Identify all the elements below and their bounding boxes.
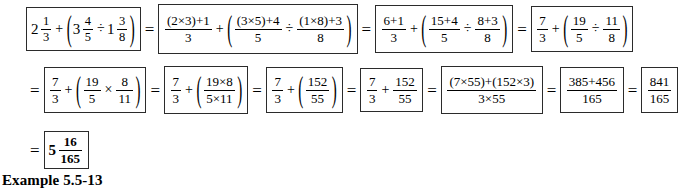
paren-open: ( [75,72,82,107]
divide-operator: ÷ [283,22,296,36]
mixed-number-1-3-8: 1 3 8 [107,15,129,44]
expression-original: 2 1 3 + ( 3 4 5 ÷ [31,15,136,44]
fraction-8-over-11: 8 11 [116,75,133,105]
fraction-7-over-3: 7 3 [50,75,61,105]
fraction-3x5-plus-4-over-5: (3×5)+4 5 [235,14,282,44]
paren-close: ) [346,11,353,46]
paren-close: ) [236,72,243,107]
numerator: 385+456 [567,75,617,88]
expression-improper-result: 841 165 [646,75,673,105]
numerator: 7 [272,75,283,88]
numerator: 19×8 [204,75,235,88]
numerator: (3×5)+4 [235,14,282,27]
mixed-number-5-16-165: 5 16 165 [49,135,84,165]
numerator: 1 [41,15,51,28]
boxed-step-parentheses-removed: 7 3 + 152 55 [360,68,423,112]
equation-row-2: = 7 3 + ( 19 5 × 8 1 [26,64,678,116]
denominator: 55 [397,92,414,105]
denominator: 3 [171,92,182,105]
numerator: 19 [571,14,588,27]
mixed-number-3-4-5: 3 4 5 [73,15,95,44]
equals-sign: = [141,21,159,38]
plus-operator: + [183,83,196,97]
paren-open: ( [195,72,202,107]
denominator: 5 [83,31,93,44]
paren-open: ( [66,11,73,46]
denominator: 11 [116,92,133,105]
fraction-15-plus-4-over-5: 15+4 5 [429,14,460,44]
equals-sign: = [624,82,642,99]
boxed-step-simplified-improper: 7 3 + ( 19 5 ÷ 11 8 ) [531,6,634,52]
expression-product-evaluated: 7 3 + ( 152 55 ) [271,75,338,105]
mixed-number-2-1-3: 2 1 3 [31,15,53,44]
denominator: 8 [606,31,617,44]
expression-cross-multiplied: (7×55)+(152×3) 3×55 [446,75,538,105]
fraction-152-over-55: 152 55 [393,75,417,105]
fraction-7-over-3: 7 3 [272,75,283,105]
equals-sign: = [513,21,531,38]
fraction-19-over-5: 19 5 [84,75,101,105]
equation-row-3: = 5 16 165 [26,129,89,171]
paren-close: ) [621,11,628,46]
numerator: 152 [306,75,330,88]
numerator: 7 [537,14,548,27]
fraction-1-3: 1 3 [41,15,51,44]
fraction-385-plus-456-over-165: 385+456 165 [567,75,617,105]
plus-operator: + [284,83,297,97]
fraction-841-over-165: 841 165 [648,75,672,105]
plus-operator: + [53,22,66,36]
fraction-6-plus-1-over-3: 6+1 3 [382,14,406,44]
paren-open: ( [297,72,304,107]
plus-operator: + [62,83,75,97]
denominator: 5 [87,92,98,105]
denominator: 3 [272,92,283,105]
fraction-11-over-8: 11 8 [603,14,620,44]
boxed-step-partial-products: 6+1 3 + ( 15+4 5 ÷ 8+3 8 ) [375,5,513,53]
boxed-step-reciprocal-multiplication: 7 3 + ( 19 5 × 8 11 ) [44,67,147,113]
expression-reciprocal-multiplication: 7 3 + ( 19 5 × 8 11 ) [49,75,142,105]
divide-operator: ÷ [589,22,602,36]
denominator: 8 [117,31,127,44]
equals-sign: = [26,82,44,99]
denominator: 5×11 [204,92,234,105]
denominator: 5 [253,31,264,44]
boxed-step-original-expression: 2 1 3 + ( 3 4 5 ÷ [26,7,141,51]
divide-operator: ÷ [461,22,474,36]
whole-part: 3 [73,22,82,37]
fraction-7-over-3: 7 3 [171,75,182,105]
expression-simplified-improper: 7 3 + ( 19 5 ÷ 11 8 ) [536,14,629,44]
expression-final-answer: 5 16 165 [49,135,84,165]
fraction-7-over-3: 7 3 [537,14,548,44]
denominator: 3×55 [476,92,507,105]
paren-close: ) [129,11,136,46]
whole-part: 2 [31,22,40,37]
equals-sign: = [343,82,361,99]
denominator: 165 [59,152,83,165]
numerator: 6+1 [382,14,406,27]
fraction-3-8: 3 8 [117,15,127,44]
equals-sign: = [358,21,376,38]
numerator: 8 [119,75,130,88]
plus-operator: + [549,22,562,36]
denominator: 3 [389,31,400,44]
fraction-152-over-55: 152 55 [306,75,330,105]
denominator: 165 [580,92,604,105]
fraction-2x3-plus-1-over-3: (2×3)+1 3 [165,14,212,44]
equation-row-1: 2 1 3 + ( 3 4 5 ÷ [26,3,633,55]
boxed-step-final-answer: 5 16 165 [44,131,89,169]
equals-sign: = [26,142,44,159]
fraction-7-over-3: 7 3 [367,75,378,105]
numerator: 841 [648,75,672,88]
boxed-step-product-evaluated: 7 3 + ( 152 55 ) [266,67,343,113]
numerator: 3 [117,15,127,28]
denominator: 3 [183,31,194,44]
numerator: 15+4 [429,14,460,27]
expression-partial-products: 6+1 3 + ( 15+4 5 ÷ 8+3 8 ) [380,14,508,44]
denominator: 5 [574,31,585,44]
equals-sign: = [423,82,441,99]
numerator: (2×3)+1 [165,14,212,27]
numerator: 7 [50,75,61,88]
whole-part: 5 [49,143,58,158]
denominator: 3 [537,31,548,44]
